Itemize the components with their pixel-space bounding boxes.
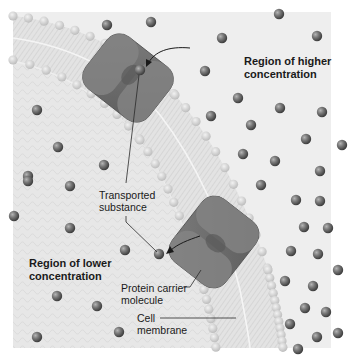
molecule — [333, 328, 343, 338]
phospholipid-head — [55, 21, 64, 30]
molecule — [53, 142, 63, 152]
molecule — [92, 301, 102, 311]
phospholipid-head — [229, 180, 238, 189]
molecule — [256, 180, 266, 190]
phospholipid-head — [267, 281, 276, 290]
phospholipid-head — [191, 117, 200, 126]
molecule — [146, 17, 156, 27]
phospholipid-head — [24, 14, 33, 23]
phospholipid-head — [143, 147, 152, 156]
phospholipid-head — [220, 163, 229, 172]
molecule — [32, 105, 42, 115]
molecule — [286, 246, 296, 256]
molecule — [317, 107, 327, 117]
transported-molecule — [135, 65, 145, 75]
molecule — [312, 332, 322, 342]
molecule — [217, 33, 227, 43]
phospholipid-head — [8, 11, 17, 20]
phospholipid-head — [42, 66, 51, 75]
molecule — [238, 149, 248, 159]
molecule — [280, 276, 290, 286]
molecule — [52, 291, 62, 301]
phospholipid-head — [8, 55, 17, 64]
phospholipid-head — [265, 273, 274, 282]
molecule — [246, 120, 256, 130]
molecule — [233, 93, 243, 103]
molecule — [200, 66, 210, 76]
phospholipid-head — [202, 295, 211, 304]
phospholipid-head — [181, 103, 190, 112]
label-transported-substance: Transported substance — [99, 189, 155, 213]
molecule — [285, 319, 295, 329]
molecule — [315, 196, 325, 206]
molecule — [299, 222, 309, 232]
molecule — [337, 140, 347, 150]
molecule — [206, 111, 216, 121]
molecule — [23, 176, 33, 186]
phospholipid-head — [57, 72, 66, 81]
molecule — [333, 265, 343, 275]
phospholipid-head — [151, 159, 160, 168]
phospholipid-head — [211, 147, 220, 156]
molecule — [312, 31, 322, 41]
phospholipid-head — [210, 333, 219, 342]
phospholipid-head — [70, 26, 79, 35]
phospholipid-head — [124, 122, 133, 131]
molecule — [275, 103, 285, 113]
molecule — [102, 20, 112, 30]
phospholipid-head — [208, 324, 217, 333]
molecule — [293, 344, 303, 354]
phospholipid-head — [237, 197, 246, 206]
phospholipid-head — [169, 198, 178, 207]
molecule — [313, 249, 323, 259]
molecule — [323, 223, 333, 233]
label-protein-carrier: Protein carrier molecule — [121, 282, 187, 306]
label-higher-concentration: Region of higher concentration — [244, 55, 331, 80]
phospholipid-head — [170, 90, 179, 99]
molecule — [321, 307, 331, 317]
phospholipid-head — [202, 132, 211, 141]
phospholipid-head — [135, 135, 144, 144]
molecule — [308, 281, 318, 291]
facilitated-diffusion-diagram: Region of higher concentration Region of… — [0, 0, 348, 355]
phospholipid-head — [258, 247, 267, 256]
molecule — [99, 160, 109, 170]
molecule — [315, 166, 325, 176]
label-cell-membrane: Cell membrane — [137, 312, 187, 336]
phospholipid-head — [39, 17, 48, 26]
molecule — [65, 181, 75, 191]
molecule — [65, 223, 75, 233]
phospholipid-head — [163, 185, 172, 194]
molecule — [300, 303, 310, 313]
molecule — [120, 245, 130, 255]
molecule — [270, 156, 280, 166]
molecule — [291, 195, 301, 205]
label-lower-concentration: Region of lower concentration — [29, 257, 112, 282]
phospholipid-head — [278, 343, 287, 352]
molecule — [9, 211, 19, 221]
phospholipid-head — [25, 60, 34, 69]
molecule — [32, 332, 42, 342]
phospholipid-head — [175, 211, 184, 220]
molecule — [301, 134, 311, 144]
phospholipid-head — [211, 343, 220, 352]
phospholipid-head — [72, 80, 81, 89]
phospholipid-head — [157, 172, 166, 181]
molecule — [114, 327, 124, 337]
phospholipid-head — [206, 314, 215, 323]
molecule — [274, 9, 284, 19]
phospholipid-head — [204, 305, 213, 314]
phospholipid-head — [263, 265, 272, 274]
phospholipid-head — [86, 32, 95, 41]
